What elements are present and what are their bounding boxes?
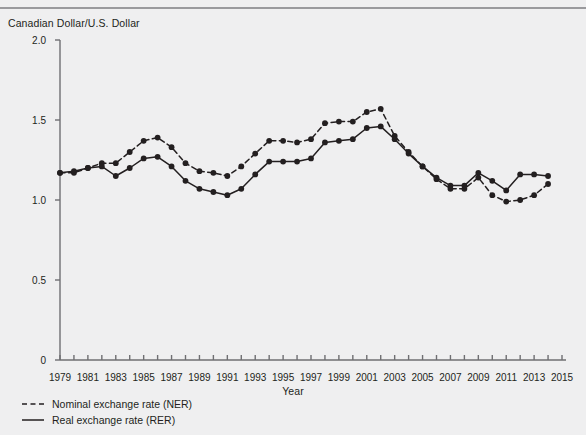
data-point (266, 138, 272, 144)
legend-item: Real exchange rate (RER) (22, 412, 192, 428)
data-point (169, 164, 175, 170)
legend-line-icon (22, 398, 44, 410)
data-point (169, 144, 175, 150)
data-point (336, 119, 342, 125)
data-point (155, 135, 161, 141)
data-point (224, 173, 230, 179)
data-point (350, 119, 356, 125)
data-point (475, 170, 481, 176)
data-point (378, 106, 384, 112)
data-point (127, 149, 133, 155)
data-series-group (57, 106, 551, 205)
data-point (252, 151, 258, 157)
data-point (280, 138, 286, 144)
data-point (503, 199, 509, 205)
data-point (210, 189, 216, 195)
data-point (224, 192, 230, 198)
plot-area (0, 0, 586, 435)
data-point (252, 172, 258, 178)
data-point (183, 178, 189, 184)
data-point (183, 160, 189, 166)
data-point (280, 159, 286, 165)
data-point (448, 183, 454, 189)
data-point (392, 136, 398, 142)
data-point (517, 172, 523, 178)
data-point (545, 173, 551, 179)
data-point (364, 125, 370, 131)
data-point (545, 181, 551, 187)
axes-lines (55, 40, 566, 360)
data-point (141, 138, 147, 144)
series-line-ner (60, 109, 548, 202)
data-point (420, 164, 426, 170)
legend-label: Real exchange rate (RER) (52, 413, 175, 427)
data-point (308, 156, 314, 162)
data-point (210, 170, 216, 176)
legend-label: Nominal exchange rate (NER) (52, 397, 192, 411)
data-point (350, 136, 356, 142)
data-point (197, 186, 203, 192)
data-point (113, 160, 119, 166)
legend-line-icon (22, 414, 44, 426)
data-point (197, 168, 203, 174)
data-point (294, 159, 300, 165)
data-point (503, 188, 509, 194)
data-point (378, 124, 384, 130)
data-point (71, 168, 77, 174)
data-point (531, 172, 537, 178)
data-point (461, 183, 467, 189)
data-point (322, 140, 328, 146)
data-point (531, 192, 537, 198)
data-point (99, 164, 105, 170)
data-point (308, 136, 314, 142)
chart-legend: Nominal exchange rate (NER)Real exchange… (22, 396, 192, 428)
data-point (489, 192, 495, 198)
series-line-rer (60, 126, 548, 195)
data-point (294, 140, 300, 146)
data-point (266, 159, 272, 165)
data-point (517, 197, 523, 203)
data-point (336, 138, 342, 144)
data-point (489, 178, 495, 184)
data-point (155, 154, 161, 160)
data-point (113, 173, 119, 179)
data-point (85, 165, 91, 171)
data-point (322, 120, 328, 126)
data-point (57, 170, 63, 176)
data-point (406, 151, 412, 157)
exchange-rate-chart-figure: Canadian Dollar/U.S. Dollar Year 00.51.0… (0, 0, 586, 435)
legend-item: Nominal exchange rate (NER) (22, 396, 192, 412)
data-point (127, 165, 133, 171)
data-point (434, 175, 440, 181)
data-point (141, 156, 147, 162)
data-point (238, 186, 244, 192)
data-point (364, 109, 370, 115)
data-point (238, 164, 244, 170)
